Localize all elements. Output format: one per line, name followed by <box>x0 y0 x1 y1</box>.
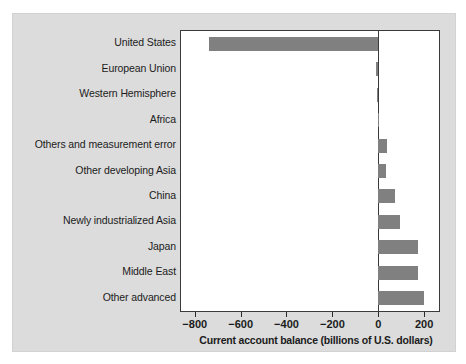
category-label: Western Hemisphere <box>14 88 176 99</box>
bar <box>378 291 424 305</box>
bar <box>378 266 418 280</box>
category-label: Middle East <box>14 266 176 277</box>
category-label: Africa <box>14 114 176 125</box>
x-axis-title: Current account balance (billions of U.S… <box>180 334 452 346</box>
category-label: Other developing Asia <box>14 165 176 176</box>
category-label: European Union <box>14 63 176 74</box>
axis-tick <box>195 312 196 317</box>
axis-tick-label: 200 <box>415 318 433 330</box>
axis-tick-label: −400 <box>274 318 299 330</box>
bar <box>378 189 395 203</box>
bar <box>209 37 378 51</box>
bar <box>378 113 379 127</box>
bar <box>378 139 386 153</box>
bar <box>378 215 400 229</box>
category-label: Other advanced <box>14 292 176 303</box>
figure: United StatesEuropean UnionWestern Hemis… <box>0 0 466 364</box>
axis-tick-label: −200 <box>320 318 345 330</box>
category-label: Newly industrialized Asia <box>14 215 176 226</box>
category-axis-labels: United StatesEuropean UnionWestern Hemis… <box>14 30 176 312</box>
axis-tick <box>241 312 242 317</box>
axis-tick <box>378 312 379 317</box>
bar <box>377 88 378 102</box>
axis-tick <box>332 312 333 317</box>
axis-tick-label: −800 <box>182 318 207 330</box>
category-label: Japan <box>14 241 176 252</box>
plot-area <box>180 30 440 312</box>
category-label: Others and measurement error <box>14 139 176 150</box>
axis-tick-label: 0 <box>375 318 381 330</box>
bar <box>378 164 386 178</box>
bar <box>378 240 417 254</box>
category-label: United States <box>14 37 176 48</box>
bars-container <box>181 31 439 311</box>
axis-tick <box>424 312 425 317</box>
axis-tick <box>286 312 287 317</box>
bar <box>376 62 378 76</box>
axis-tick-label: −600 <box>228 318 253 330</box>
category-label: China <box>14 190 176 201</box>
